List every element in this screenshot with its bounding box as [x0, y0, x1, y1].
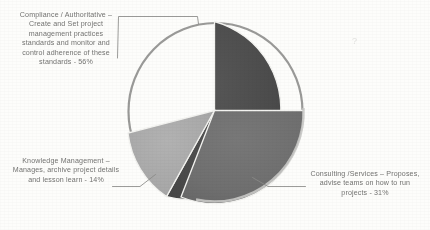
- pie-label-compliance: Compliance / Authoritative – Create and …: [14, 11, 118, 67]
- pie-label-knowledge-management: Knowledge Management – Manages, archive …: [12, 157, 120, 185]
- pie-label-consulting-services: Consulting /Services – Proposes, advise …: [306, 170, 424, 198]
- scan-artifact: ?: [352, 36, 357, 46]
- chart-canvas: ? Compliance / Authoritative – Create an…: [0, 0, 430, 230]
- leader-line-compliance: [118, 17, 199, 59]
